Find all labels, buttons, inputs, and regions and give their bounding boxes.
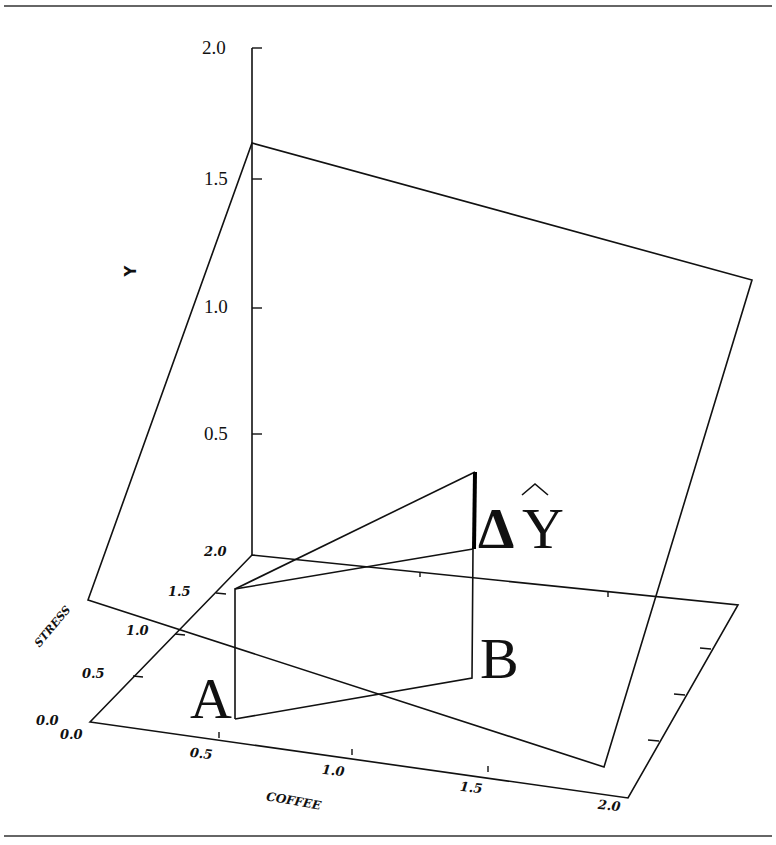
hat-overlay xyxy=(0,0,776,845)
hat-icon xyxy=(522,484,548,495)
figure-3d-regression-plane: 2.0 1.5 1.0 0.5 Y 2.0 1.5 1.0 0.5 0.0 ST… xyxy=(0,0,776,845)
